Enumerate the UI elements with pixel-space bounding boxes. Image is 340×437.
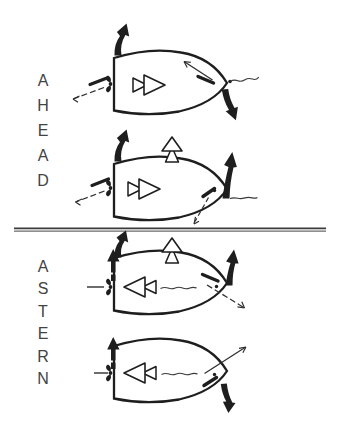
bow-swing-arrow xyxy=(221,384,236,413)
bow-swing-arrow xyxy=(223,152,237,198)
astern-boat-top xyxy=(87,231,245,315)
astern-boat-bottom xyxy=(94,337,246,413)
prop-walk-dash xyxy=(90,78,107,85)
rudder-post-dot xyxy=(213,189,216,192)
wake-squiggle xyxy=(230,77,259,81)
prop-wash-arrowhead xyxy=(76,199,83,205)
ahead-boat-top xyxy=(73,24,259,121)
propeller-icon xyxy=(106,180,112,197)
wake-squiggle xyxy=(230,197,257,198)
rudder-post-dot xyxy=(213,373,216,376)
stern-swing-arrow xyxy=(114,24,129,56)
rudder-flow-arrowhead xyxy=(194,217,199,224)
diagram-canvas xyxy=(0,0,340,437)
ahead-boat-bottom xyxy=(76,130,258,225)
section-divider xyxy=(14,228,326,231)
prop-walk-dash xyxy=(92,179,109,186)
stern-swing-arrow xyxy=(114,231,128,258)
drift-arrowhead xyxy=(239,347,246,353)
prop-wash-arrowhead xyxy=(73,96,80,102)
bow-swing-arrow xyxy=(226,250,239,286)
propeller-icon xyxy=(106,279,112,296)
bow-swing-arrow xyxy=(222,89,238,120)
figure-canvas: A H E A D A S T E R N xyxy=(0,0,340,437)
stern-swing-arrow xyxy=(114,130,129,162)
rudder-post-dot xyxy=(215,285,218,288)
